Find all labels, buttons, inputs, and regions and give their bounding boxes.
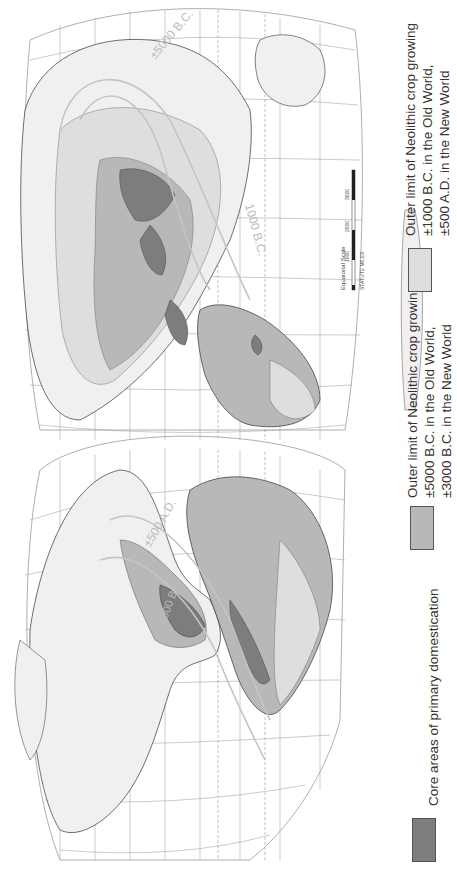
scale-tick-3000: 3000: [344, 189, 350, 200]
map-figure: ±500 A.D. 3000 B.C. ±5000 B.C. 1000 B.C.…: [0, 0, 457, 873]
scale-bar: [352, 170, 355, 290]
old-world-lobe: [21, 9, 423, 440]
scale-unit: STATUTE MILES: [359, 251, 365, 290]
legend-swatch-5000bc: [410, 506, 434, 550]
scale-tick-2000: 2000: [344, 221, 350, 232]
new-world-lobe: [15, 436, 345, 860]
legend-label-1000bc: Outer limit of Neolithic crop growing ±1…: [402, 23, 453, 236]
world-map: ±500 A.D. 3000 B.C. ±5000 B.C. 1000 B.C.…: [0, 0, 457, 873]
legend-swatch-1000bc: [408, 248, 432, 292]
legend-label-core: Core areas of primary domestication: [425, 588, 442, 806]
contour-label-1000bc: 1000 B.C.: [242, 202, 269, 257]
scale-tick-1000: 1000: [344, 251, 350, 262]
legend-label-5000bc: Outer limit of Neolithic crop growing ±5…: [404, 285, 455, 498]
legend-swatch-core: [412, 818, 436, 862]
